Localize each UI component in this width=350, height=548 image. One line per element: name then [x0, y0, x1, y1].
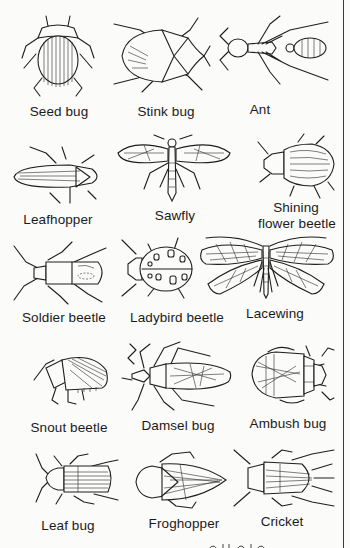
specimen-label: Sawfly — [148, 208, 202, 224]
specimen-label: Stink bug — [126, 104, 206, 120]
specimen-label: Damsel bug — [138, 418, 218, 434]
insect-identification-plate: Seed bug Stink bug Ant — [0, 0, 350, 548]
damsel-bug-drawing-icon — [120, 340, 236, 414]
specimen-sawfly — [114, 133, 234, 205]
froghopper-drawing-icon — [130, 450, 232, 510]
specimen-soldier-beetle — [12, 238, 110, 306]
leafhopper-drawing-icon — [10, 145, 106, 205]
specimen-ambush-bug — [246, 342, 336, 408]
specimen-label: Froghopper — [144, 516, 224, 532]
shining-flower-beetle-drawing-icon — [254, 130, 338, 200]
specimen-label-line2: flower beetle — [250, 216, 344, 232]
specimen-cricket — [232, 446, 336, 510]
specimen-label: Ant — [240, 102, 280, 118]
stink-bug-drawing-icon — [112, 16, 212, 96]
cropped-caption-fragment — [205, 540, 285, 548]
specimen-lacewing — [196, 232, 338, 304]
specimen-label: Cricket — [252, 514, 312, 530]
sawfly-drawing-icon — [114, 133, 234, 205]
soldier-beetle-drawing-icon — [12, 238, 110, 306]
specimen-label: Ambush bug — [248, 416, 328, 432]
specimen-label: Leafhopper — [18, 212, 98, 228]
specimen-leafhopper — [10, 145, 106, 205]
specimen-shining-flower-beetle — [254, 130, 338, 200]
leaf-bug-drawing-icon — [34, 452, 118, 508]
specimen-label: Snout beetle — [24, 420, 114, 436]
specimen-label: Lacewing — [242, 306, 308, 322]
ladybird-beetle-drawing-icon — [118, 234, 200, 304]
ambush-bug-drawing-icon — [246, 342, 336, 408]
specimen-label: Soldier beetle — [16, 310, 112, 326]
specimen-seed-bug — [18, 12, 98, 97]
specimen-damsel-bug — [120, 340, 236, 414]
snout-beetle-drawing-icon — [32, 350, 112, 406]
specimen-label: Leaf bug — [36, 518, 100, 534]
specimen-label: Shining — [256, 200, 336, 216]
specimen-stink-bug — [112, 16, 212, 96]
lacewing-drawing-icon — [196, 232, 338, 304]
specimen-ant — [218, 14, 336, 92]
seed-bug-drawing-icon — [18, 12, 98, 97]
page-edge-rule — [343, 0, 344, 548]
specimen-snout-beetle — [32, 350, 112, 406]
specimen-leaf-bug — [34, 452, 118, 508]
specimen-label: Ladybird beetle — [126, 310, 228, 326]
specimen-label: Seed bug — [20, 104, 98, 120]
cricket-drawing-icon — [232, 446, 336, 510]
ant-drawing-icon — [218, 14, 336, 92]
specimen-froghopper — [130, 450, 232, 510]
specimen-ladybird-beetle — [118, 234, 200, 304]
